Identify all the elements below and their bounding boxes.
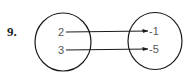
arrow-2-to-neg1 <box>66 31 148 32</box>
arrow-3-to-neg5 <box>66 49 148 50</box>
mapping-diagram: 9. 2 3 -1 -5 <box>0 0 186 76</box>
range-element-neg5: -5 <box>149 43 159 55</box>
range-element-neg1: -1 <box>149 25 159 37</box>
domain-circle <box>35 13 91 71</box>
domain-element-2: 2 <box>58 26 64 38</box>
domain-element-3: 3 <box>58 44 64 56</box>
problem-number: 9. <box>7 24 17 39</box>
range-circle <box>128 13 182 70</box>
